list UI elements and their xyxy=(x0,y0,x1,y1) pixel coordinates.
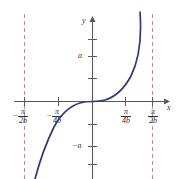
fraction-denominator: 2b xyxy=(18,117,28,125)
x-tick-label-neg-pi-2b: −π2b xyxy=(13,107,28,125)
x-tick-label-pos-pi-2b: π2b xyxy=(148,107,158,125)
fraction-denominator: 4b xyxy=(52,117,62,125)
fraction-pi-4b: π4b xyxy=(121,108,131,125)
plot-area xyxy=(0,0,177,179)
y-axis-arrow xyxy=(90,16,96,22)
x-tick-label-neg-pi-4b: −π4b xyxy=(47,107,62,125)
fraction-pi-4b: π4b xyxy=(52,108,62,125)
tangent-function-graph: y x a −a −π2b −π4b π4b π2b xyxy=(0,0,177,179)
fraction-pi-2b: π2b xyxy=(18,108,28,125)
minus-sign: − xyxy=(13,112,18,120)
fraction-denominator: 4b xyxy=(121,117,131,125)
minus-sign: − xyxy=(47,112,52,120)
x-axis-label: x xyxy=(167,103,171,112)
y-axis-label: y xyxy=(82,16,86,25)
fraction-denominator: 2b xyxy=(148,117,158,125)
fraction-pi-2b: π2b xyxy=(148,108,158,125)
y-tick-label-neg-a: −a xyxy=(72,141,81,150)
x-tick-label-pos-pi-4b: π4b xyxy=(121,107,131,125)
tangent-curve xyxy=(35,12,141,179)
y-tick-label-a: a xyxy=(78,51,82,60)
